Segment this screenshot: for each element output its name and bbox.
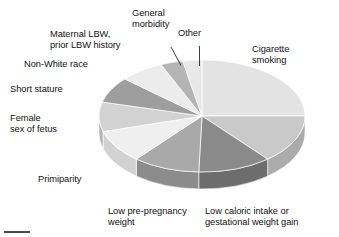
pie-top-faces bbox=[99, 60, 305, 172]
slice-label-low-pre-pregnancy-weight: Low pre-pregnancy weight bbox=[108, 206, 187, 227]
slice-label-maternal-lbw: Maternal LBW, prior LBW history bbox=[50, 29, 120, 50]
slice-label-short-stature: Short stature bbox=[10, 84, 63, 95]
pie-chart-figure: Cigarette smoking Low caloric intake or … bbox=[0, 0, 339, 237]
footer-rule bbox=[4, 231, 30, 233]
slice-label-primiparity: Primiparity bbox=[38, 174, 81, 185]
slice-label-non-white-race: Non-White race bbox=[24, 59, 88, 70]
pie-slice bbox=[202, 60, 305, 116]
slice-label-general-morbidity: General morbidity bbox=[132, 8, 169, 29]
slice-label-other: Other bbox=[178, 28, 201, 39]
slice-label-cigarette-smoking: Cigarette smoking bbox=[252, 44, 289, 65]
slice-label-female-sex-of-fetus: Female sex of fetus bbox=[10, 113, 57, 134]
slice-label-low-caloric-intake: Low caloric intake or gestational weight… bbox=[205, 206, 298, 227]
